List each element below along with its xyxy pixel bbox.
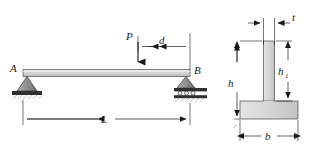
dimension-d-label: d [159,34,165,46]
dimension-h1-label: h [278,65,284,77]
ground-hatch-b [175,98,204,102]
dimension-h1-subscript: 1 [285,72,289,80]
roller-support-b [174,77,207,103]
pin-support-a [12,77,42,100]
dimension-t-label: t [292,11,296,23]
roller-wheels [178,91,195,95]
point-load-label: P [125,30,133,42]
support-b-label: B [194,64,201,76]
beam-cross-section-figure: A B P [0,0,310,146]
beam-member [23,70,190,77]
t-cross-section [240,41,298,119]
dimension-l-label: L [100,113,107,125]
dimension-b-label: b [265,130,271,142]
ground-hatch-a [13,95,42,99]
figure-canvas: A B P [0,0,310,146]
support-a-label: A [9,62,17,74]
dimension-h-label: h [228,77,234,89]
